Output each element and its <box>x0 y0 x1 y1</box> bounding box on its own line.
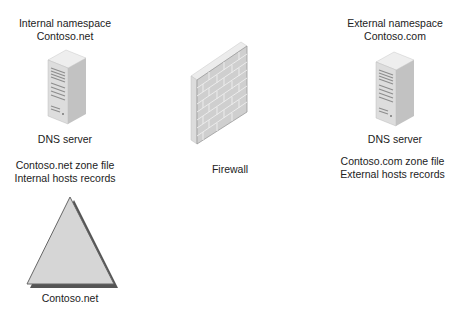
triangle-zone-icon <box>24 194 120 290</box>
external-zone-file-label: Contoso.com zone file External hosts rec… <box>325 155 460 181</box>
external-namespace-label: External namespace Contoso.com <box>330 17 460 43</box>
internal-dns-server-label: DNS server <box>15 133 115 146</box>
external-zone-file-subtitle: External hosts records <box>325 168 460 181</box>
external-dns-server-label: DNS server <box>345 133 445 146</box>
internal-domain-name: Contoso.net <box>0 30 130 43</box>
firewall-label: Firewall <box>190 163 270 176</box>
external-zone-file-title: Contoso.com zone file <box>325 155 460 168</box>
internal-namespace-label: Internal namespace Contoso.net <box>0 17 130 43</box>
internal-dns-server-icon <box>42 46 92 126</box>
internal-zone-file-subtitle: Internal hosts records <box>0 172 130 185</box>
brick-wall-icon <box>189 36 255 146</box>
external-namespace-title: External namespace <box>330 17 460 30</box>
internal-zone-file-title: Contoso.net zone file <box>0 159 130 172</box>
zone-contoso-net-label: Contoso.net <box>20 292 120 305</box>
internal-zone-file-label: Contoso.net zone file Internal hosts rec… <box>0 159 130 185</box>
internal-namespace-title: Internal namespace <box>0 17 130 30</box>
external-domain-name: Contoso.com <box>330 30 460 43</box>
external-dns-server-icon <box>370 48 420 128</box>
